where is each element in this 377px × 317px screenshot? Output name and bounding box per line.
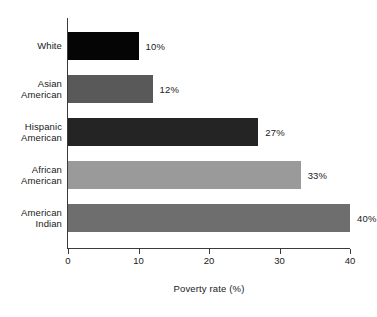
x-tick-label: 20 [204,255,215,266]
category-label-line: Indian [0,218,62,230]
category-label-line: Hispanic [0,121,62,133]
x-tick-label: 40 [345,255,356,266]
x-tick-mark [280,249,281,254]
category-label-line: American [0,132,62,144]
x-tick-mark [209,249,210,254]
category-label: White [0,40,62,52]
category-label-line: White [0,40,62,52]
bar-row: 12% [68,75,153,103]
x-axis-ticks: 010203040 [68,249,350,271]
category-label-line: African [0,164,62,176]
x-tick-label: 0 [65,255,70,266]
bar-value-label: 10% [146,41,166,52]
bar [68,204,350,232]
bar [68,32,139,60]
x-tick-mark [139,249,140,254]
x-axis-title: Poverty rate (%) [68,283,350,294]
x-tick-label: 10 [133,255,144,266]
category-axis-labels: WhiteAsianAmericanHispanicAmericanAfrica… [0,18,62,249]
bar-row: 10% [68,32,139,60]
category-label: AfricanAmerican [0,164,62,187]
x-tick-label: 30 [274,255,285,266]
bar [68,75,153,103]
category-label-line: American [0,175,62,187]
bar-value-label: 33% [308,170,328,181]
bar-row: 27% [68,118,258,146]
bar [68,118,258,146]
category-label: AmericanIndian [0,207,62,230]
bar-series: 10%12%27%33%40% [68,18,350,249]
category-label-line: Asian [0,78,62,90]
bar-row: 40% [68,204,350,232]
bar-row: 33% [68,161,301,189]
category-label: HispanicAmerican [0,121,62,144]
x-tick-mark [350,249,351,254]
x-tick-mark [68,249,69,254]
bar-value-label: 12% [160,84,180,95]
category-label-line: American [0,207,62,219]
category-label-line: American [0,89,62,101]
category-label: AsianAmerican [0,78,62,101]
bar-value-label: 27% [265,127,285,138]
bar-value-label: 40% [357,213,377,224]
bar [68,161,301,189]
